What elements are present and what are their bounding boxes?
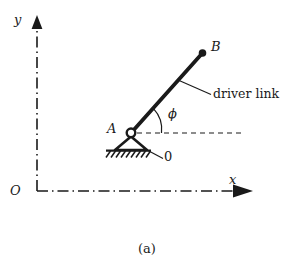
ground-hatching	[106, 151, 151, 158]
angle-arc	[154, 109, 162, 133]
point-b-dot	[199, 49, 207, 57]
mechanism-diagram	[0, 0, 294, 274]
figure-caption: (a)	[0, 242, 294, 255]
point-a-label: A	[107, 122, 116, 135]
x-axis-label: x	[229, 173, 236, 186]
ground-label-leader-line	[147, 150, 163, 159]
y-axis-arrowhead	[32, 15, 43, 29]
pivot-joint-circle	[127, 129, 136, 138]
driver-link-leader-line	[178, 80, 211, 95]
figure-container: y x O A B ϕ 0 driver link (a)	[0, 0, 294, 274]
driver-link-bar	[131, 53, 203, 133]
ground-support-triangle	[115, 137, 147, 151]
angle-phi-label: ϕ	[168, 107, 177, 120]
ground-label: 0	[164, 150, 172, 163]
driver-link-annotation: driver link	[213, 88, 279, 101]
origin-label: O	[10, 184, 21, 197]
x-axis-arrowhead	[233, 184, 253, 197]
point-b-label: B	[211, 40, 221, 53]
y-axis-label: y	[14, 13, 21, 26]
